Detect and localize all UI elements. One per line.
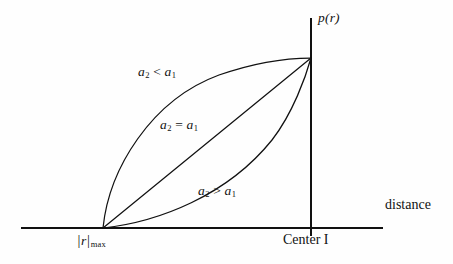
- x-tick-label-rmax: |r|max: [77, 233, 106, 249]
- annotation-middle-curve: a2=a1: [160, 118, 198, 133]
- rmax-subscript: max: [91, 239, 106, 249]
- annotation-middle-operator: =: [172, 117, 187, 132]
- annotation-upper-operator: <: [150, 64, 165, 79]
- annotation-upper-curve: a2<a1: [138, 65, 176, 80]
- annotation-lower-sub-1: 1: [231, 189, 236, 199]
- x-axis-label: distance: [385, 198, 431, 212]
- figure-container: a2<a1 a2=a1 a2>a1 p(r) distance |r|max C…: [0, 0, 453, 264]
- annotation-lower-operator: >: [210, 183, 225, 198]
- annotation-lower-symbol-a2: a: [198, 183, 205, 198]
- y-axis-label: p(r): [318, 11, 340, 25]
- annotation-upper-sub-2: 2: [145, 70, 150, 80]
- annotation-upper-symbol-a2: a: [138, 64, 145, 79]
- x-tick-label-center: Center I: [283, 233, 328, 247]
- rmax-symbol-r: r: [81, 233, 86, 248]
- annotation-middle-symbol-a2: a: [160, 117, 167, 132]
- annotation-lower-curve: a2>a1: [198, 184, 236, 199]
- annotation-lower-sub-2: 2: [205, 189, 210, 199]
- annotation-middle-sub-1: 1: [193, 123, 198, 133]
- plot-area: [0, 0, 453, 264]
- annotation-upper-sub-1: 1: [171, 70, 176, 80]
- annotation-middle-sub-2: 2: [167, 123, 172, 133]
